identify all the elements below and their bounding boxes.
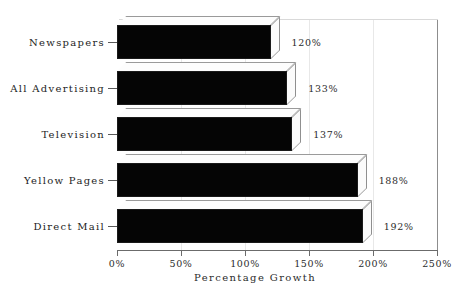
bar-top-face [117, 62, 297, 71]
category-tick [108, 88, 117, 89]
bar-front-face [117, 209, 363, 243]
bar-top-face [117, 154, 367, 163]
bar-value-label: 192% [384, 221, 414, 232]
bar-value-label: 120% [292, 37, 322, 48]
bar-chart: 0%50%100%150%200%250%Newspapers120%All A… [0, 0, 474, 296]
bar-front-face [117, 71, 287, 105]
category-label: All Advertising [10, 83, 105, 94]
x-axis-tick-label: 200% [358, 258, 388, 269]
bar-side-face [363, 200, 372, 243]
bar-value-label: 137% [313, 129, 343, 140]
x-axis-title: Percentage Growth [194, 272, 316, 283]
bar-value-label: 188% [379, 175, 409, 186]
category-tick [108, 42, 117, 43]
x-axis-tick-label: 50% [170, 258, 193, 269]
bar-top-face [117, 200, 372, 209]
x-axis-tick-label: 150% [294, 258, 324, 269]
x-axis-tick [437, 250, 438, 256]
bar-side-face [271, 16, 280, 59]
x-axis-tick-label: 250% [422, 258, 452, 269]
category-label: Television [41, 129, 105, 140]
bar-side-face [287, 62, 296, 105]
bar-front-face [117, 117, 292, 151]
bar-top-face [117, 108, 302, 117]
category-tick [108, 226, 117, 227]
bar-front-face [117, 25, 271, 59]
gridline [373, 20, 374, 250]
bar-side-face [358, 154, 367, 197]
category-tick [108, 134, 117, 135]
bar-top-face [117, 16, 280, 25]
plot-frame-right [437, 20, 438, 250]
bar-value-label: 133% [308, 83, 338, 94]
bar-side-face [292, 108, 301, 151]
x-axis-tick-label: 0% [109, 258, 125, 269]
x-axis-tick [373, 250, 374, 256]
category-tick [108, 180, 117, 181]
category-label: Newspapers [29, 37, 105, 48]
category-label: Direct Mail [33, 221, 105, 232]
category-label: Yellow Pages [24, 175, 105, 186]
bar-front-face [117, 163, 358, 197]
x-axis-tick-label: 100% [230, 258, 260, 269]
bar [117, 209, 372, 252]
